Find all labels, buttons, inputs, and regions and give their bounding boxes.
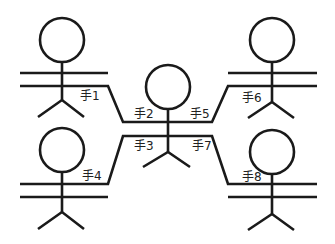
head-bottom-right <box>250 130 294 174</box>
legs-bottom-right <box>248 214 294 230</box>
label-hand-2: 手2 <box>134 107 154 121</box>
label-hand-3: 手3 <box>134 139 154 153</box>
label-hand-8: 手8 <box>242 170 262 184</box>
label-hand-7: 手7 <box>192 139 212 153</box>
head-top-right <box>250 18 294 62</box>
head-center <box>146 65 190 109</box>
legs-bottom-left <box>38 212 84 229</box>
label-hand-4: 手4 <box>82 169 102 183</box>
legs-center <box>143 152 190 167</box>
head-top-left <box>40 18 84 62</box>
label-hand-6: 手6 <box>242 91 262 105</box>
legs-top-left <box>38 100 84 117</box>
handshake-diagram: 手1 手2 手3 手4 手5 手6 手7 手8 <box>0 0 335 244</box>
label-hand-1: 手1 <box>80 89 100 103</box>
label-hand-5: 手5 <box>190 107 210 121</box>
head-bottom-left <box>40 128 84 172</box>
